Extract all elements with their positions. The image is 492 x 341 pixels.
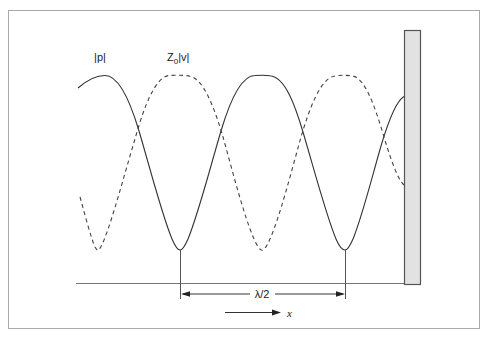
- figure-container: |p| Z0|v| λ/2 x: [0, 0, 492, 341]
- x-axis-label: x: [286, 307, 292, 319]
- pressure-curve-label: |p|: [94, 51, 106, 63]
- half-wavelength-label: λ/2: [255, 288, 270, 300]
- rigid-wall: [405, 31, 421, 285]
- standing-wave-diagram: |p| Z0|v| λ/2 x: [0, 0, 492, 341]
- velocity-label-rest: |v|: [178, 51, 189, 63]
